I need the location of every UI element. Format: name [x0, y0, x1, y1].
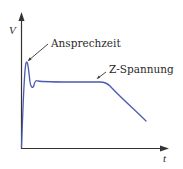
annotation-response-time: Ansprechzeit	[28, 37, 122, 62]
y-axis-arrow-icon	[19, 12, 25, 21]
y-axis-label: V	[9, 24, 17, 36]
annotation-label: Ansprechzeit	[50, 37, 121, 49]
annotation-label: Z-Spannung	[109, 63, 174, 75]
x-axis-arrow-icon	[160, 146, 169, 152]
leader-line	[29, 44, 48, 60]
voltage-time-diagram: V t Ansprechzeit Z-Spannung	[0, 0, 183, 169]
x-axis	[21, 146, 169, 152]
y-axis	[19, 12, 25, 149]
leader-arrow-icon	[97, 76, 101, 80]
x-axis-label: t	[163, 152, 167, 164]
annotation-zener-voltage: Z-Spannung	[97, 63, 175, 79]
